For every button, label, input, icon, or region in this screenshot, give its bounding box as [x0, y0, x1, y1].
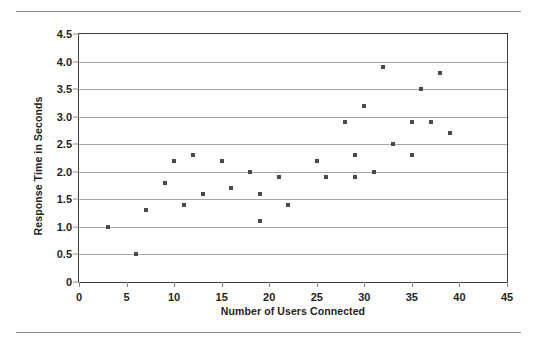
data-point [362, 104, 366, 108]
data-point [248, 170, 252, 174]
data-point [372, 170, 376, 174]
data-point [258, 219, 262, 223]
data-point [144, 208, 148, 212]
y-tick-mark [73, 171, 79, 172]
y-tick-mark [73, 226, 79, 227]
y-gridline [79, 199, 507, 200]
y-gridline [79, 117, 507, 118]
x-tick-label: 45 [501, 291, 513, 303]
data-point [134, 252, 138, 256]
y-tick-mark [73, 116, 79, 117]
x-tick-label: 25 [311, 291, 323, 303]
bottom-divider-rule [16, 332, 521, 333]
x-tick-label: 30 [358, 291, 370, 303]
y-tick-mark [73, 61, 79, 62]
scatter-plot-figure: Response Time in Seconds Number of Users… [0, 0, 537, 342]
y-tick-mark [73, 144, 79, 145]
y-gridline [79, 144, 507, 145]
x-axis-title: Number of Users Connected [78, 305, 508, 317]
data-point [429, 120, 433, 124]
data-point [410, 153, 414, 157]
y-tick-mark [73, 199, 79, 200]
x-tick-mark [317, 282, 318, 287]
data-point [343, 120, 347, 124]
y-tick-label: 0 [66, 276, 72, 288]
y-tick-mark [73, 34, 79, 35]
y-tick-label: 4.0 [57, 56, 72, 68]
data-point [191, 153, 195, 157]
data-point [315, 159, 319, 163]
x-tick-label: 15 [216, 291, 228, 303]
x-tick-label: 20 [263, 291, 275, 303]
data-point [182, 203, 186, 207]
y-tick-label: 1.0 [57, 221, 72, 233]
data-point [172, 159, 176, 163]
y-tick-label: 3.5 [57, 83, 72, 95]
y-tick-label: 0.5 [57, 248, 72, 260]
y-gridline [79, 62, 507, 63]
y-tick-label: 3.0 [57, 111, 72, 123]
data-point [353, 175, 357, 179]
data-point [163, 181, 167, 185]
data-point [220, 159, 224, 163]
x-tick-mark [222, 282, 223, 287]
x-tick-label: 0 [76, 291, 82, 303]
x-tick-mark [459, 282, 460, 287]
x-tick-label: 10 [168, 291, 180, 303]
data-point [201, 192, 205, 196]
x-tick-mark [412, 282, 413, 287]
x-tick-mark [127, 282, 128, 287]
y-tick-label: 2.0 [57, 166, 72, 178]
data-point [410, 120, 414, 124]
data-point [448, 131, 452, 135]
y-tick-mark [73, 254, 79, 255]
data-point [353, 153, 357, 157]
plot-area: 00.51.01.52.02.53.03.54.04.5051015202530… [78, 33, 508, 283]
data-point [419, 87, 423, 91]
x-tick-label: 35 [406, 291, 418, 303]
y-tick-label: 4.5 [57, 28, 72, 40]
y-tick-mark [73, 89, 79, 90]
data-point [391, 142, 395, 146]
y-axis-title: Response Time in Seconds [32, 66, 44, 266]
x-tick-mark [364, 282, 365, 287]
x-tick-mark [507, 282, 508, 287]
data-point [324, 175, 328, 179]
data-point [438, 71, 442, 75]
data-point [106, 225, 110, 229]
x-tick-label: 40 [453, 291, 465, 303]
x-tick-mark [269, 282, 270, 287]
y-tick-label: 2.5 [57, 138, 72, 150]
data-point [277, 175, 281, 179]
data-point [229, 186, 233, 190]
top-divider-rule [16, 11, 521, 12]
y-tick-label: 1.5 [57, 193, 72, 205]
data-point [381, 65, 385, 69]
data-point [286, 203, 290, 207]
y-gridline [79, 172, 507, 173]
y-gridline [79, 227, 507, 228]
x-tick-mark [174, 282, 175, 287]
y-gridline [79, 254, 507, 255]
x-tick-mark [79, 282, 80, 287]
y-gridline [79, 89, 507, 90]
x-tick-label: 5 [123, 291, 129, 303]
data-point [258, 192, 262, 196]
